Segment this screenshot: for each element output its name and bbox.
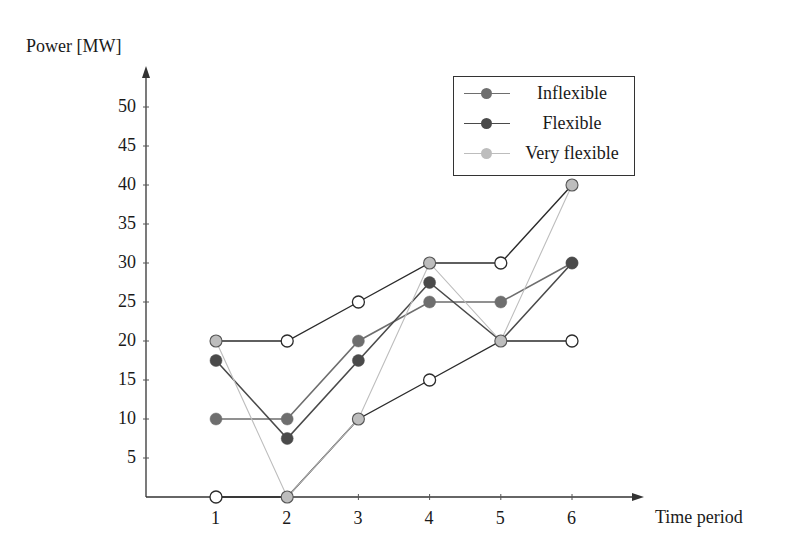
data-point-marker-icon [424, 277, 436, 289]
legend-item-inflexible: Inflexible [454, 81, 636, 107]
data-point-marker-icon [566, 179, 578, 191]
data-point-marker-icon [424, 257, 436, 269]
y-tick-label: 25 [118, 291, 136, 312]
x-tick-label: 5 [496, 508, 505, 529]
series-line-flexible [216, 263, 572, 439]
data-point-marker-icon [210, 355, 222, 367]
series-line-upper-bound [216, 185, 572, 341]
line-chart [0, 0, 788, 557]
x-tick-label: 2 [282, 508, 291, 529]
data-point-marker-icon [352, 335, 364, 347]
circle-marker-icon [481, 88, 492, 99]
y-tick-label: 15 [118, 369, 136, 390]
data-point-marker-icon [281, 491, 293, 503]
open-circle-marker-icon [210, 491, 222, 503]
data-point-marker-icon [210, 335, 222, 347]
circle-marker-icon [481, 118, 492, 129]
open-circle-marker-icon [566, 335, 578, 347]
y-tick-label: 10 [118, 408, 136, 429]
legend-label: Flexible [512, 113, 632, 134]
y-tick-label: 45 [118, 135, 136, 156]
legend-item-very-flexible: Very flexible [454, 141, 636, 167]
x-tick-label: 6 [567, 508, 576, 529]
y-axis-arrow-icon [142, 66, 150, 78]
legend: Inflexible Flexible Very flexible [453, 76, 635, 176]
data-point-marker-icon [495, 335, 507, 347]
data-point-marker-icon [566, 257, 578, 269]
y-tick-label: 40 [118, 174, 136, 195]
y-tick-label: 50 [118, 96, 136, 117]
data-point-marker-icon [495, 296, 507, 308]
data-point-marker-icon [352, 355, 364, 367]
data-point-marker-icon [424, 296, 436, 308]
y-tick-label: 20 [118, 330, 136, 351]
legend-label: Very flexible [512, 143, 632, 164]
open-circle-marker-icon [495, 257, 507, 269]
y-axis-label: Power [MW] [26, 36, 121, 57]
legend-item-flexible: Flexible [454, 111, 636, 137]
open-circle-marker-icon [424, 374, 436, 386]
y-tick-label: 30 [118, 252, 136, 273]
y-tick-label: 35 [118, 213, 136, 234]
legend-label: Inflexible [512, 83, 632, 104]
x-tick-label: 4 [425, 508, 434, 529]
data-point-marker-icon [281, 433, 293, 445]
data-point-marker-icon [210, 413, 222, 425]
series-lines [216, 185, 572, 497]
data-point-marker-icon [281, 413, 293, 425]
open-circle-marker-icon [352, 296, 364, 308]
x-tick-label: 1 [211, 508, 220, 529]
open-circle-marker-icon [281, 335, 293, 347]
x-axis-arrow-icon [632, 493, 644, 501]
x-axis-label: Time period [655, 507, 743, 528]
circle-marker-icon [481, 148, 492, 159]
y-tick-label: 5 [127, 447, 136, 468]
x-tick-label: 3 [353, 508, 362, 529]
data-point-marker-icon [352, 413, 364, 425]
